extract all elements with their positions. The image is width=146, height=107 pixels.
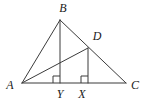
vertex-label-a: A <box>6 79 13 91</box>
segment-AD <box>22 48 88 83</box>
right-angle-at-X <box>81 76 88 83</box>
vertex-label-c: C <box>131 79 139 91</box>
right-angle-at-Y <box>53 76 60 83</box>
vertex-label-b: B <box>59 2 66 14</box>
segments-group <box>22 20 126 83</box>
right-angle-markers-group <box>53 76 88 83</box>
vertex-label-d: D <box>93 30 102 42</box>
vertex-label-y: Y <box>57 88 64 100</box>
geometry-figure: ABCDYX <box>0 0 146 107</box>
segment-AB <box>22 20 60 83</box>
vertex-label-x: X <box>78 88 85 100</box>
geometry-canvas <box>0 0 146 107</box>
